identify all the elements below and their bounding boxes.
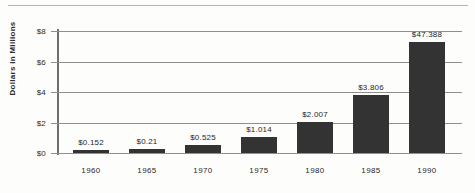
x-tick-label-1985: 1985 xyxy=(344,166,398,175)
bar-1985[interactable] xyxy=(353,95,389,153)
bar-chart-figure: Dollars in Millions $8 $6 $4 $2 $0 $0.15… xyxy=(0,0,475,193)
gridline-0 xyxy=(58,153,462,154)
y-tick-label-2: $2 xyxy=(6,119,46,128)
y-tick-label-4: $4 xyxy=(6,88,46,97)
y-tick-mark-4 xyxy=(51,92,58,93)
bar-value-1985: $3.806 xyxy=(338,83,404,92)
bar-group-1980: $2.007 xyxy=(288,31,342,153)
y-tick-mark-0 xyxy=(51,153,58,154)
bar-value-1970: $0.525 xyxy=(170,133,236,142)
bar-value-1975: $1.014 xyxy=(226,125,292,134)
y-tick-mark-8 xyxy=(51,31,58,32)
bar-group-1985: $3.806 xyxy=(344,31,398,153)
y-tick-mark-2 xyxy=(51,123,58,124)
bar-group-1965: $0.21 xyxy=(120,31,174,153)
bar-group-1975: $1.014 xyxy=(232,31,286,153)
bar-1975[interactable] xyxy=(241,137,277,153)
x-tick-label-1990: 1990 xyxy=(400,166,454,175)
y-tick-label-6: $6 xyxy=(6,58,46,67)
page-top-rule xyxy=(8,5,468,6)
bar-1970[interactable] xyxy=(185,145,221,153)
y-tick-label-8: $8 xyxy=(6,27,46,36)
bar-1980[interactable] xyxy=(297,122,333,153)
x-tick-label-1965: 1965 xyxy=(120,166,174,175)
bar-value-1990: $47.388 xyxy=(394,30,460,39)
bar-1965[interactable] xyxy=(129,149,165,153)
bar-1960[interactable] xyxy=(73,150,109,153)
y-tick-label-0: $0 xyxy=(6,149,46,158)
bar-group-1970: $0.525 xyxy=(176,31,230,153)
x-tick-label-1980: 1980 xyxy=(288,166,342,175)
x-tick-label-1960: 1960 xyxy=(64,166,118,175)
bar-1990[interactable] xyxy=(409,42,445,153)
bar-group-1990: $47.388 xyxy=(400,31,454,153)
x-tick-label-1970: 1970 xyxy=(176,166,230,175)
bar-value-1980: $2.007 xyxy=(282,110,348,119)
y-tick-mark-6 xyxy=(51,62,58,63)
plot-area: $0.152 $0.21 $0.525 $1.014 $2.007 $3.806… xyxy=(58,31,462,153)
bar-group-1960: $0.152 xyxy=(64,31,118,153)
x-tick-label-1975: 1975 xyxy=(232,166,286,175)
